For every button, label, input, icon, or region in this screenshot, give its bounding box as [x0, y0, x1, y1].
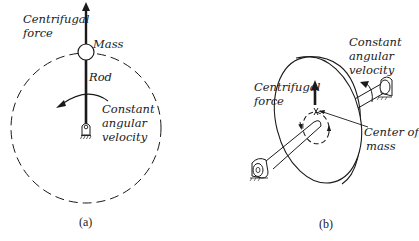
mass-circle — [78, 44, 94, 60]
label-line: force — [254, 94, 320, 108]
label-constant-angular-velocity-a: Constant angular velocity — [102, 102, 155, 144]
caption-b: (b) — [319, 217, 333, 232]
pivot-support-icon — [81, 124, 92, 140]
label-constant-angular-velocity-b: Constant angular velocity — [349, 35, 402, 77]
label-center-of-mass: Center of mass — [364, 125, 419, 153]
label-line: Center of — [364, 125, 419, 139]
caption-text: (b) — [319, 217, 333, 231]
label-line: Mass — [93, 37, 123, 51]
left-bearing-icon — [250, 159, 268, 181]
label-line: Centrifugal — [23, 12, 89, 26]
label-line: Rod — [89, 70, 112, 84]
right-bearing-icon — [377, 77, 392, 100]
caption-text: (a) — [79, 215, 92, 229]
label-centrifugal-force-a: Centrifugal force — [23, 12, 89, 40]
caption-a: (a) — [79, 215, 92, 230]
label-line: angular — [102, 116, 155, 130]
label-line: Centrifugal — [254, 80, 320, 94]
label-line: velocity — [102, 130, 155, 144]
label-centrifugal-force-b: Centrifugal force — [254, 80, 320, 108]
label-line: Constant — [102, 102, 155, 116]
label-mass: Mass — [93, 37, 123, 51]
label-line: angular — [349, 49, 402, 63]
label-rod: Rod — [89, 70, 112, 84]
label-line: force — [23, 26, 89, 40]
label-line: mass — [364, 139, 419, 153]
label-line: velocity — [349, 63, 402, 77]
label-line: Constant — [349, 35, 402, 49]
